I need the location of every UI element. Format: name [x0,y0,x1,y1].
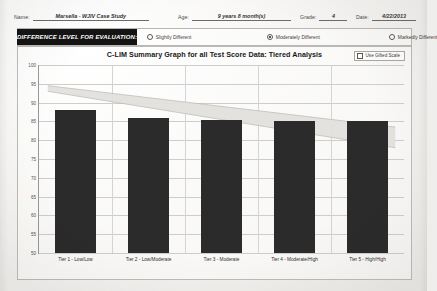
name-value[interactable]: Marsella - WJIV Case Study [33,13,149,21]
radio-label: Markedly Different [398,35,437,40]
age-label: Age: [178,14,189,21]
x-axis-tick-label: Tier 4 - Moderate/High [271,257,318,262]
chart-title: C-LIM Summary Graph for all Test Score D… [18,50,411,59]
radio-icon-selected[interactable] [267,34,273,40]
x-axis-tick-label: Tier 2 - Low/Moderate [126,257,172,262]
date-label: Date: [356,14,369,21]
checkbox-icon[interactable] [357,53,363,59]
age-field[interactable]: Age: 9 years 8 month(s) [178,13,296,21]
y-axis-tick-label: 80 [31,138,36,143]
difference-level-panel: DIFFERENCE LEVEL FOR EVALUATION: Slightl… [17,28,412,46]
radio-label: Slightly Different [156,35,192,40]
y-axis-tick-label: 85 [31,119,36,124]
age-value[interactable]: 9 years 8 month(s) [192,13,291,21]
radio-icon[interactable] [147,34,153,40]
chart-bars: Tier 1 - Low/LowTier 2 - Low/ModerateTie… [39,65,404,253]
bar [55,110,96,253]
y-axis-tick-label: 70 [31,175,36,180]
bar [347,121,388,253]
y-axis-tick-label: 55 [31,232,36,237]
checkbox-label: Use Gifted Scale [366,53,400,58]
y-axis-tick-label: 95 [31,81,36,86]
grade-value[interactable]: 4 [319,13,347,21]
chart-plot-area: 50556065707580859095100 Tier 1 - Low/Low… [38,65,404,254]
radio-slightly-different[interactable]: Slightly Different [147,34,267,40]
radio-markedly-different[interactable]: Markedly Different [389,34,437,40]
x-axis-tick-label: Tier 5 - High/High [349,257,386,262]
difference-level-radio-group: Slightly Different Moderately Different … [137,34,437,40]
bar [201,120,242,253]
y-axis-tick-label: 90 [31,100,36,105]
y-axis-tick-label: 75 [31,157,36,162]
radio-label: Moderately Different [276,35,320,40]
x-axis-tick-label: Tier 1 - Low/Low [58,257,92,262]
difference-level-banner: DIFFERENCE LEVEL FOR EVALUATION: [17,29,137,45]
bar [274,121,315,253]
y-axis-tick-label: 65 [31,194,36,199]
radio-moderately-different[interactable]: Moderately Different [267,34,389,40]
grade-label: Grade: [300,14,316,21]
name-label: Name: [14,14,30,21]
bar [128,118,169,253]
y-axis-tick-label: 100 [28,63,36,68]
radio-icon[interactable] [389,34,395,40]
date-value[interactable]: 4/22/2013 [372,13,416,21]
x-axis-tick-label: Tier 3 - Moderate [204,257,240,262]
student-info-header: Name: Marsella - WJIV Case Study Age: 9 … [0,13,427,27]
y-axis-tick-label: 60 [31,213,36,218]
grade-field[interactable]: Grade: 4 [300,13,352,21]
chart-panel: C-LIM Summary Graph for all Test Score D… [17,46,412,280]
name-field[interactable]: Name: Marsella - WJIV Case Study [14,13,166,21]
date-field[interactable]: Date: 4/22/2013 [356,13,418,21]
use-gifted-scale-checkbox[interactable]: Use Gifted Scale [354,51,405,62]
gridline [39,253,404,254]
y-axis-tick-label: 50 [31,251,36,256]
